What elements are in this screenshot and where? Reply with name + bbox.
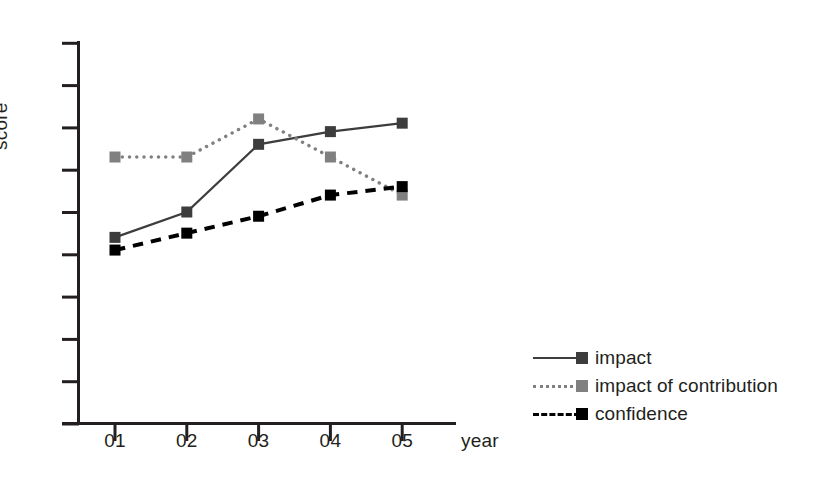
data-point-impact-02[interactable] [181,207,192,218]
series-line-impact-of-contribution [115,119,402,195]
legend-sample-impact [533,349,591,367]
legend-line-impact [533,357,580,359]
series-confidence [110,181,408,255]
legend-item-confidence[interactable]: confidence [533,400,823,428]
legend-sample-impact-of-contribution [533,377,591,395]
data-point-impact-of-contribution-01[interactable] [110,152,121,163]
chart-legend: impact impact of contribution confidence [533,344,823,428]
data-point-confidence-01[interactable] [110,245,121,256]
y-axis-ticks [62,43,79,424]
legend-sample-confidence [533,405,591,423]
data-point-impact-04[interactable] [325,126,336,137]
data-point-confidence-04[interactable] [325,190,336,201]
data-series-group [110,113,408,255]
data-point-impact-01[interactable] [110,232,121,243]
legend-label-confidence: confidence [591,403,688,425]
x-tick-label-01: 01 [93,430,137,452]
y-axis-label: score [0,30,16,150]
axis-spines [62,41,456,424]
data-point-confidence-05[interactable] [397,181,408,192]
data-point-impact-of-contribution-03[interactable] [253,113,264,124]
legend-line-impact-of-contribution [533,385,580,388]
data-point-impact-05[interactable] [397,118,408,129]
legend-marker-impact [576,352,588,364]
legend-label-impact: impact [591,347,652,369]
data-point-impact-of-contribution-02[interactable] [181,152,192,163]
series-impact-of-contribution [110,113,408,200]
x-tick-label-03: 03 [237,430,281,452]
legend-label-impact-of-contribution: impact of contribution [591,375,778,397]
chart-figure: score year 0102030405 impact impact of c… [0,0,828,478]
x-tick-label-02: 02 [165,430,209,452]
data-point-impact-of-contribution-04[interactable] [325,152,336,163]
data-point-confidence-02[interactable] [181,228,192,239]
legend-marker-impact-of-contribution [576,380,588,392]
legend-line-confidence [533,413,580,416]
x-axis-label: year [461,430,499,452]
legend-item-impact[interactable]: impact [533,344,823,372]
data-point-impact-03[interactable] [253,139,264,150]
legend-item-impact-of-contribution[interactable]: impact of contribution [533,372,823,400]
series-impact [110,118,408,243]
x-tick-label-04: 04 [308,430,352,452]
data-point-confidence-03[interactable] [253,211,264,222]
x-tick-label-05: 05 [380,430,424,452]
legend-marker-confidence [576,408,588,420]
